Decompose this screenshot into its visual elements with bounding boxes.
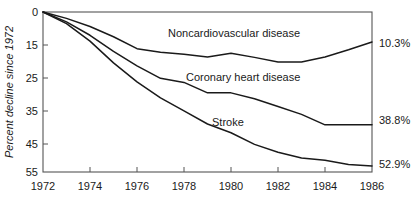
end-value-noncardiovascular-disease: 10.3% — [379, 37, 410, 49]
y-axis-tick-labels: 0 15 25 35 45 55 — [26, 6, 38, 178]
series-label-noncardiovascular-disease: Noncardiovascular disease — [168, 27, 300, 39]
x-tick-label: 1972 — [31, 180, 55, 192]
y-tick-label: 0 — [32, 6, 38, 18]
series-label-stroke: Stroke — [212, 116, 244, 128]
y-tick-label: 15 — [26, 39, 38, 51]
x-tick-label: 1984 — [313, 180, 337, 192]
line-chart: Percent decline since 1972 0 15 25 35 45… — [0, 0, 419, 206]
x-tick-label: 1986 — [360, 180, 384, 192]
y-tick-label: 55 — [26, 166, 38, 178]
y-axis-tick-marks — [43, 45, 48, 144]
y-axis-title: Percent decline since 1972 — [3, 26, 15, 158]
x-tick-label: 1982 — [266, 180, 290, 192]
x-tick-label: 1978 — [172, 180, 196, 192]
y-tick-label: 45 — [26, 138, 38, 150]
end-value-stroke: 52.9% — [379, 158, 410, 170]
x-axis-tick-labels: 1972 1974 1976 1978 1980 1982 1984 1986 — [31, 180, 384, 192]
chart-container: Percent decline since 1972 0 15 25 35 45… — [0, 0, 419, 206]
x-tick-label: 1976 — [125, 180, 149, 192]
x-axis-tick-marks — [90, 167, 325, 172]
y-tick-label: 25 — [26, 72, 38, 84]
end-value-coronary-heart-disease: 38.8% — [379, 114, 410, 126]
x-tick-label: 1974 — [78, 180, 102, 192]
y-tick-label: 35 — [26, 105, 38, 117]
series-label-coronary-heart-disease: Coronary heart disease — [186, 71, 300, 83]
x-tick-label: 1980 — [219, 180, 243, 192]
